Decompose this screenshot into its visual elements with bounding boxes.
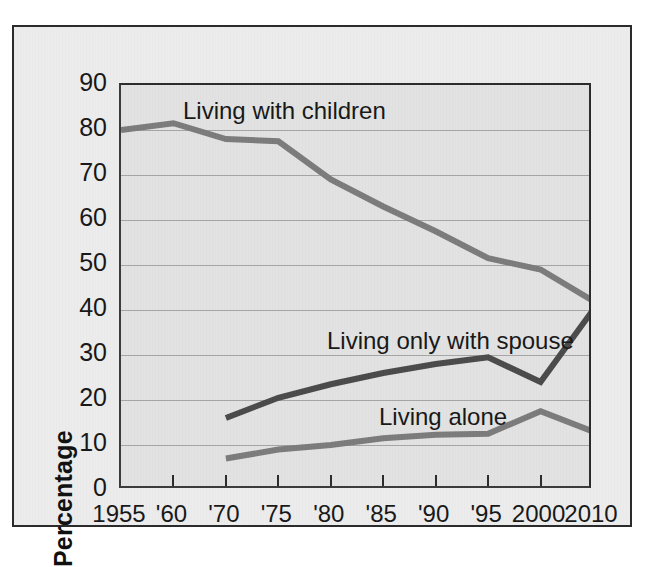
y-axis-tick-label: 50 [51, 250, 107, 275]
y-axis-tick-label: 0 [51, 475, 107, 500]
plot-inner: Living with childrenLiving only with spo… [121, 85, 589, 486]
x-axis-tick [435, 475, 437, 486]
y-axis-tick-label: 20 [51, 385, 107, 410]
y-axis-tick-label: 30 [51, 340, 107, 365]
x-axis-tick [225, 475, 227, 486]
series-lines [121, 85, 589, 486]
x-axis-tick [540, 475, 542, 486]
y-axis-tick-label: 80 [51, 115, 107, 140]
x-axis-tick-label: '75 [261, 500, 292, 528]
x-axis-tick-label: 2010 [564, 500, 617, 528]
x-axis-tick-label: '70 [208, 500, 239, 528]
x-axis-tick-label: 1955 [92, 500, 145, 528]
series-label-alone: Living alone [379, 403, 507, 431]
series-line [121, 123, 589, 301]
x-axis-tick [172, 475, 174, 486]
y-axis-tick-label: 90 [51, 70, 107, 95]
y-axis-tick-label: 60 [51, 205, 107, 230]
x-axis-tick-label: '90 [418, 500, 449, 528]
x-axis-tick [487, 475, 489, 486]
y-axis-tick-label: 70 [51, 160, 107, 185]
x-axis-tick-label: '60 [156, 500, 187, 528]
x-axis-tick-label: '95 [470, 500, 501, 528]
series-label-children: Living with children [183, 97, 386, 125]
x-axis-tick [330, 475, 332, 486]
y-axis-tick-label: 40 [51, 295, 107, 320]
y-axis-tick-label: 10 [51, 430, 107, 455]
series-label-spouse: Living only with spouse [327, 327, 574, 355]
chart-figure: Percentage 0102030405060708090 Living wi… [12, 25, 632, 527]
x-axis-tick-label: 2000 [512, 500, 565, 528]
x-axis-tick-label: '80 [313, 500, 344, 528]
x-axis-tick [277, 475, 279, 486]
x-axis-tick-label: '85 [366, 500, 397, 528]
plot-area: Living with childrenLiving only with spo… [119, 83, 591, 488]
x-axis-tick [382, 475, 384, 486]
